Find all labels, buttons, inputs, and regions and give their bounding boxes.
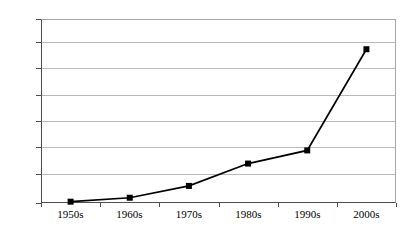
data-point-2000s [363,46,369,52]
data-point-1970s [186,183,192,189]
series-markers [68,46,370,204]
data-point-1990s [304,147,310,153]
line-chart: 140 120 100 80 60 40 20 0 1950s 1960s 19… [0,0,406,235]
data-point-1980s [245,161,251,167]
data-point-1950s [68,199,74,205]
data-series-layer [0,0,406,235]
data-point-1960s [127,195,133,201]
series-line [71,49,367,201]
